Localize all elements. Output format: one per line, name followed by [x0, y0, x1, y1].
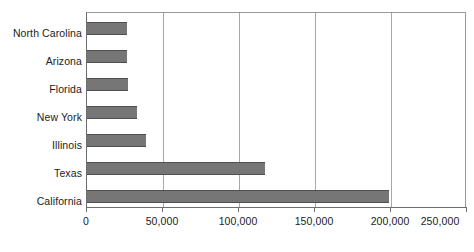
y-axis-category-labels: North Carolina Arizona Florida New York …	[0, 12, 82, 207]
x-axis-tick	[466, 207, 467, 212]
x-axis-tick-label: 0	[83, 215, 89, 227]
y-axis-tick-label: Texas	[0, 167, 82, 179]
y-axis-tick-label: Arizona	[0, 55, 82, 67]
bar-arizona	[87, 50, 127, 63]
plot-area	[86, 12, 466, 207]
bar-new-york	[87, 106, 137, 119]
bar-row	[87, 190, 389, 203]
x-axis-tick-label: 50,000	[146, 215, 179, 227]
bar-row	[87, 22, 127, 35]
gridline-100000	[239, 13, 240, 207]
x-axis-tick-label: 150,000	[295, 215, 334, 227]
bar-chart: North Carolina Arizona Florida New York …	[0, 0, 474, 252]
bar-illinois	[87, 134, 146, 147]
y-axis-tick-label: Florida	[0, 83, 82, 95]
bar-row	[87, 106, 137, 119]
bar-row	[87, 50, 127, 63]
y-axis-tick-label: Illinois	[0, 139, 82, 151]
bar-row	[87, 78, 128, 91]
x-axis-tick	[390, 207, 391, 212]
x-axis-tick	[314, 207, 315, 212]
gridline-150000	[315, 13, 316, 207]
bar-row	[87, 134, 146, 147]
x-axis-tick-label: 250,000	[421, 215, 460, 227]
bar-florida	[87, 78, 128, 91]
y-axis-tick-label: North Carolina	[0, 27, 82, 39]
bar-row	[87, 162, 265, 175]
bar-texas	[87, 162, 265, 175]
x-axis-tick	[162, 207, 163, 212]
y-axis-tick-label: New York	[0, 111, 82, 123]
x-axis-tick-label: 200,000	[371, 215, 410, 227]
y-axis-tick-label: California	[0, 195, 82, 207]
gridline-50000	[163, 13, 164, 207]
bar-north-carolina	[87, 22, 127, 35]
gridline-200000	[391, 13, 392, 207]
x-axis-tick	[86, 207, 87, 212]
x-axis-tick	[238, 207, 239, 212]
x-axis-tick-label: 100,000	[219, 215, 258, 227]
bar-california	[87, 190, 389, 203]
x-axis-line	[86, 207, 466, 208]
